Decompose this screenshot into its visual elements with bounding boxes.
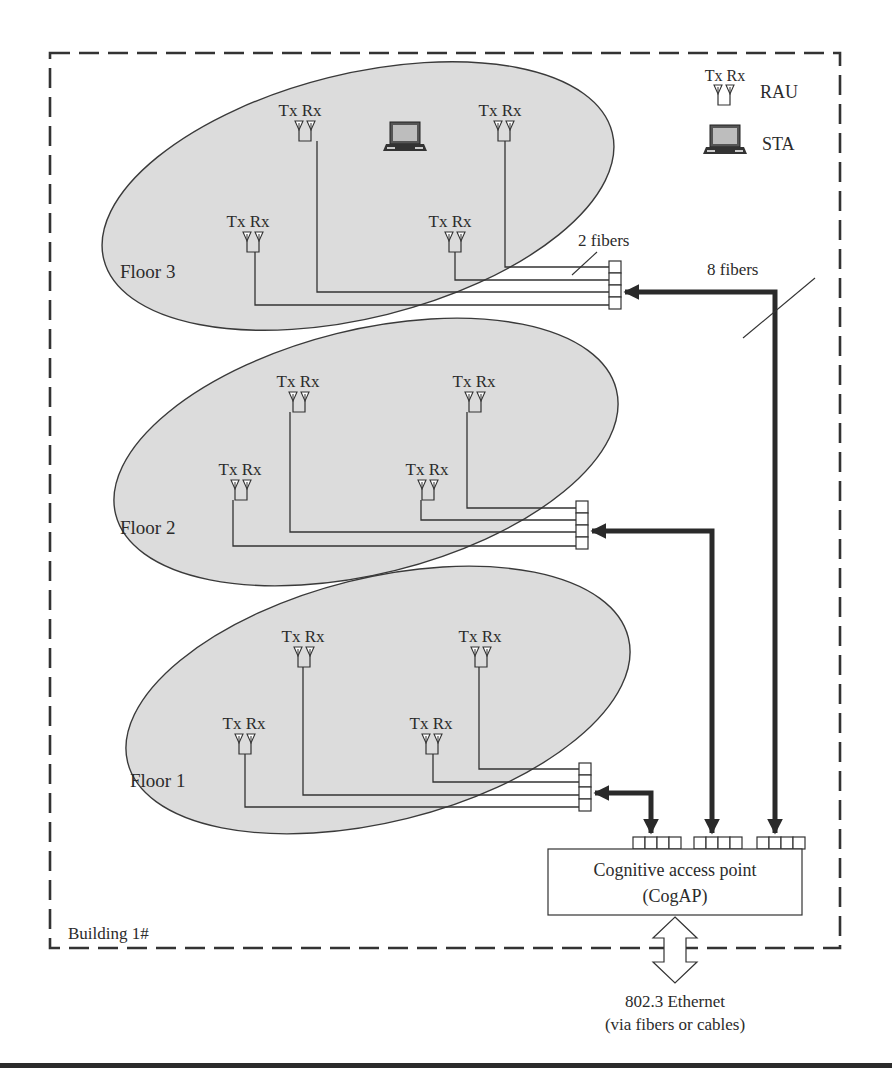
fiber-bundle-floor-1 [595, 793, 651, 833]
cogap-ports [633, 837, 805, 849]
svg-text:Tx Rx: Tx Rx [410, 714, 453, 733]
legend-sta-label: STA [762, 134, 795, 154]
floor-3-connector [609, 261, 621, 309]
sta-legend-icon [703, 125, 747, 154]
ethernet-sublabel: (via fibers or cables) [605, 1015, 745, 1034]
legend-rau-label: RAU [760, 82, 798, 102]
svg-text:Tx Rx: Tx Rx [459, 627, 502, 646]
eight-fibers-label: 8 fibers [707, 260, 758, 279]
legend-rau-antenna-labels: Tx Rx [705, 67, 745, 84]
ethernet-label: 802.3 Ethernet [625, 992, 725, 1011]
fiber-bundle-floor-3 [625, 292, 775, 833]
floor-3-zone [74, 14, 641, 378]
sta-laptop-icon [383, 122, 427, 151]
page-bottom-rule [0, 1063, 892, 1068]
cogap-title: Cognitive access point [594, 860, 757, 880]
floor-1-label: Floor 1 [130, 770, 185, 791]
svg-text:Tx Rx: Tx Rx [282, 627, 325, 646]
floor-1-connector [579, 763, 591, 811]
svg-text:Tx Rx: Tx Rx [227, 212, 270, 231]
svg-text:Tx Rx: Tx Rx [279, 101, 322, 120]
two-fibers-slash [572, 252, 597, 275]
legend: Tx Rx RAU STA [703, 67, 798, 154]
floor-3-label: Floor 3 [120, 261, 175, 282]
cogap-subtitle: (CogAP) [642, 886, 707, 907]
svg-text:Tx Rx: Tx Rx [429, 212, 472, 231]
eight-fibers-slash [743, 278, 815, 338]
svg-text:Tx Rx: Tx Rx [219, 460, 262, 479]
svg-text:Tx Rx: Tx Rx [223, 714, 266, 733]
svg-text:Tx Rx: Tx Rx [479, 101, 522, 120]
ethernet-double-arrow [653, 917, 697, 983]
svg-text:Tx Rx: Tx Rx [406, 460, 449, 479]
svg-text:Tx Rx: Tx Rx [453, 372, 496, 391]
svg-text:Tx Rx: Tx Rx [277, 372, 320, 391]
floor-2-connector [576, 501, 588, 549]
network-diagram: Floor 3 Floor 2 Floor 1 Tx Rx Tx Rx Tx R… [0, 0, 892, 1083]
building-label: Building 1# [68, 924, 149, 943]
floor-2-label: Floor 2 [120, 517, 175, 538]
cogap-box: Cognitive access point (CogAP) [548, 849, 802, 915]
rau-legend-icon [714, 85, 734, 105]
two-fibers-label: 2 fibers [578, 231, 629, 250]
